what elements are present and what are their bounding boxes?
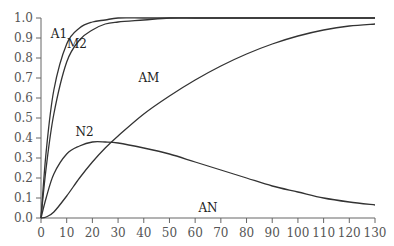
x-tick-label: 40 bbox=[136, 226, 151, 240]
label-a1: A1 bbox=[50, 27, 67, 41]
chart: 0.00.10.20.30.40.50.60.70.80.91.00102030… bbox=[0, 0, 394, 246]
series-labels: A1M2AMN2AN bbox=[50, 27, 218, 215]
y-tick-label: 0.3 bbox=[14, 151, 33, 165]
y-tick-label: 0.1 bbox=[14, 191, 33, 205]
y-tick-label: 0.7 bbox=[14, 71, 33, 85]
series-a1-line bbox=[41, 18, 375, 218]
x-tick-label: 120 bbox=[338, 226, 361, 240]
x-tick-label: 30 bbox=[110, 226, 125, 240]
label-n2: N2 bbox=[76, 125, 94, 139]
y-tick-label: 0.8 bbox=[14, 51, 33, 65]
x-tick-label: 80 bbox=[239, 226, 254, 240]
x-tick-label: 20 bbox=[85, 226, 100, 240]
x-tick-label: 50 bbox=[162, 226, 177, 240]
y-tick-label: 1.0 bbox=[14, 11, 33, 25]
label-m2: M2 bbox=[67, 37, 87, 51]
x-tick-label: 100 bbox=[286, 226, 309, 240]
label-am: AM bbox=[137, 71, 159, 85]
series-lines bbox=[41, 18, 375, 218]
label-an: AN bbox=[197, 201, 217, 215]
y-tick-label: 0.9 bbox=[14, 31, 33, 45]
y-tick-label: 0.2 bbox=[14, 171, 33, 185]
x-tick-label: 110 bbox=[312, 226, 335, 240]
x-tick-label: 130 bbox=[364, 226, 387, 240]
y-tick-label: 0.5 bbox=[14, 111, 33, 125]
x-tick-label: 70 bbox=[213, 226, 228, 240]
x-tick-label: 0 bbox=[37, 226, 45, 240]
x-tick-label: 60 bbox=[188, 226, 203, 240]
x-tick-label: 10 bbox=[59, 226, 74, 240]
line-chart: 0.00.10.20.30.40.50.60.70.80.91.00102030… bbox=[0, 0, 394, 246]
y-tick-label: 0.4 bbox=[14, 131, 33, 145]
x-tick-label: 90 bbox=[265, 226, 280, 240]
series-am-line bbox=[41, 24, 375, 218]
y-tick-label: 0.0 bbox=[14, 211, 33, 225]
y-tick-label: 0.6 bbox=[14, 91, 33, 105]
series-m2-line bbox=[41, 18, 375, 218]
